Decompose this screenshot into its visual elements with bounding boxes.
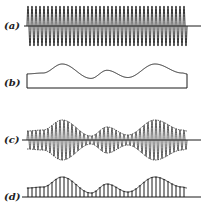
panel-label-c: (c) — [4, 135, 20, 145]
panel-d-rectified-wave — [22, 177, 201, 197]
waveform-diagram — [0, 0, 204, 202]
panel-label-a: (a) — [4, 21, 20, 31]
panel-c-modulated-wave — [22, 120, 201, 160]
panel-label-d: (d) — [4, 192, 20, 202]
panel-a-carrier-wave — [24, 6, 201, 46]
modulation-figure: (a) (b) (c) (d) — [0, 0, 204, 202]
panel-label-b: (b) — [4, 78, 20, 88]
panel-b-modulating-signal — [27, 64, 187, 88]
